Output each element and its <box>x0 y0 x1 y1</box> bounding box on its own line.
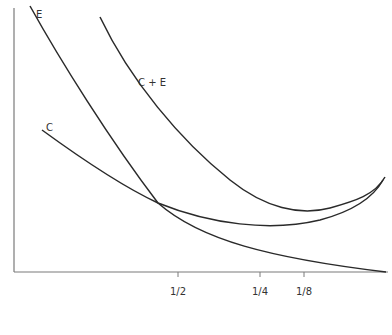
x-tick-label-quarter: 1/4 <box>252 286 268 297</box>
label-c: C <box>46 122 53 133</box>
curve-c <box>42 130 383 226</box>
chart: 1/2 1/4 1/8 E C + E C <box>0 0 392 335</box>
x-tick-label-half: 1/2 <box>170 286 186 297</box>
label-e: E <box>36 9 42 20</box>
x-tick-label-eighth: 1/8 <box>296 286 312 297</box>
curve-e <box>30 6 386 272</box>
label-c-plus-e: C + E <box>138 77 166 88</box>
